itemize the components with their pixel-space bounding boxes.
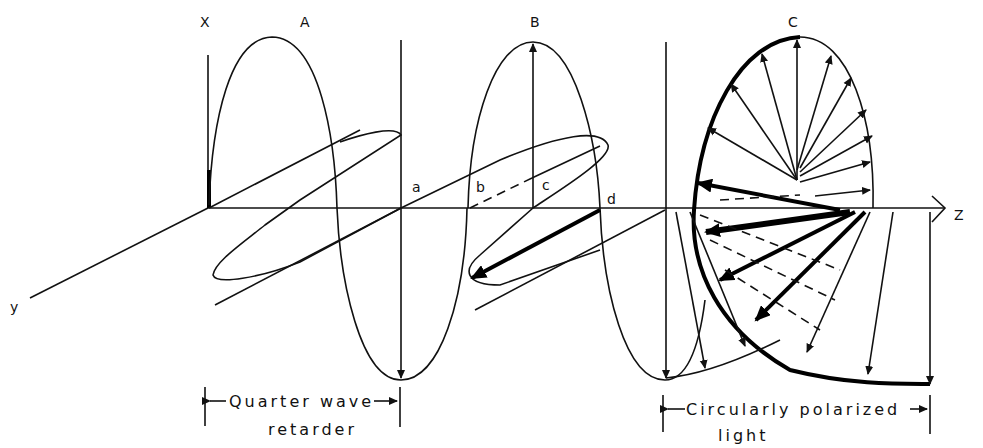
lower-helix-thin [666, 340, 780, 378]
fan-vector [800, 110, 866, 172]
caption-circular-line2: light [718, 426, 768, 445]
x-wave-lower-lobe [337, 208, 467, 380]
dashed-line [710, 240, 835, 300]
section-a: A a [209, 14, 467, 380]
z-axis-arrow-icon [932, 196, 945, 222]
label-b: B [530, 14, 540, 30]
point-label-a: a [412, 179, 421, 195]
z-axis-label: Z [954, 207, 964, 223]
y-plane-line-2 [215, 208, 401, 305]
b-diagonal [532, 146, 600, 178]
caption-quarter-wave: Quarter wave retarder [205, 387, 400, 439]
fan-vector [800, 136, 872, 176]
fan-vector [708, 128, 797, 180]
point-label-d: d [607, 191, 616, 207]
lower-vector [868, 212, 893, 374]
section-b: B b c d [401, 14, 705, 380]
b-wave-upper-lobe [468, 42, 600, 208]
caption-quarter-wave-line1: Quarter wave [229, 392, 374, 411]
bold-vector [706, 212, 850, 232]
label-a: A [300, 14, 310, 30]
ellipse-b-upper [401, 136, 608, 208]
fan-vector [800, 78, 851, 168]
vector-fan [698, 40, 872, 352]
fan-vector [797, 56, 831, 170]
fan-vector [762, 54, 797, 180]
y-axis-label: y [10, 299, 18, 315]
polarization-diagram: X y Z A a B b c d C [0, 0, 983, 448]
x-wave-upper-lobe [209, 37, 337, 208]
bold-vector [756, 212, 865, 320]
section-c: C [666, 14, 930, 384]
fan-vector [800, 162, 870, 182]
point-label-c: c [542, 177, 550, 193]
y-axis [30, 208, 208, 298]
x-axis-label: X [200, 14, 210, 30]
fan-vector [815, 190, 870, 196]
dashed-line [725, 270, 820, 330]
label-c: C [788, 14, 798, 30]
helix-bold-path [694, 37, 930, 384]
b-wave-lower-lobe [600, 208, 705, 380]
caption-circular: Circularly polarized light [663, 395, 930, 445]
fan-vector [731, 84, 797, 180]
caption-quarter-wave-line2: retarder [268, 420, 357, 439]
caption-circular-line1: Circularly polarized [686, 400, 900, 419]
lower-vector [676, 212, 705, 368]
point-label-b: b [476, 179, 485, 195]
